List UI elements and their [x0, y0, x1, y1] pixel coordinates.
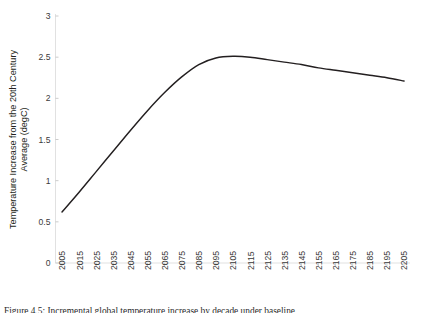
- x-tick-label: 2085: [194, 251, 204, 270]
- x-tick-label: 2055: [143, 251, 153, 270]
- x-tick-label: 2065: [160, 251, 170, 270]
- temperature-line-chart: 00.511.522.53 20052015202520352045205520…: [0, 0, 423, 313]
- y-tick-label: 2: [46, 93, 51, 103]
- x-tick-label: 2175: [348, 251, 358, 270]
- x-tick-label: 2165: [331, 251, 341, 270]
- x-tick-label: 2035: [109, 251, 119, 270]
- y-tick-label: 0.5: [39, 217, 51, 227]
- x-tick-label: 2095: [211, 251, 221, 270]
- y-axis: 00.511.522.53: [39, 11, 59, 268]
- x-tick-label: 2045: [126, 251, 136, 270]
- x-tick-label: 2185: [365, 251, 375, 270]
- figure-caption-text: Figure 4.5: Incremental global temperatu…: [0, 306, 423, 313]
- x-tick-label: 2015: [75, 251, 85, 270]
- x-tick-label: 2115: [246, 251, 256, 270]
- axis-titles: Temperature Increase from the 20th Centu…: [8, 50, 29, 229]
- y-tick-label: 1.5: [39, 135, 51, 145]
- series-line: [62, 56, 404, 212]
- x-tick-label: 2205: [399, 251, 409, 270]
- x-tick-label: 2195: [382, 251, 392, 270]
- x-tick-label: 2025: [92, 251, 102, 270]
- x-tick-label: 2125: [263, 251, 273, 270]
- y-tick-label: 2.5: [39, 52, 51, 62]
- chart-figure: 00.511.522.53 20052015202520352045205520…: [0, 0, 423, 313]
- y-tick-label: 3: [46, 11, 51, 21]
- x-tick-label: 2105: [228, 251, 238, 270]
- x-tick-label: 2005: [57, 251, 67, 270]
- figure-caption: Figure 4.5: Incremental global temperatu…: [0, 306, 423, 313]
- x-tick-label: 2145: [297, 251, 307, 270]
- x-tick-label: 2155: [314, 251, 324, 270]
- x-tick-label: 2075: [177, 251, 187, 270]
- x-axis: 2005201520252035204520552065207520852095…: [56, 251, 411, 270]
- y-tick-label: 1: [46, 176, 51, 186]
- y-axis-title: Temperature Increase from the 20th Centu…: [8, 50, 29, 229]
- data-series: [62, 56, 404, 212]
- y-tick-label: 0: [46, 258, 51, 268]
- x-tick-label: 2135: [280, 251, 290, 270]
